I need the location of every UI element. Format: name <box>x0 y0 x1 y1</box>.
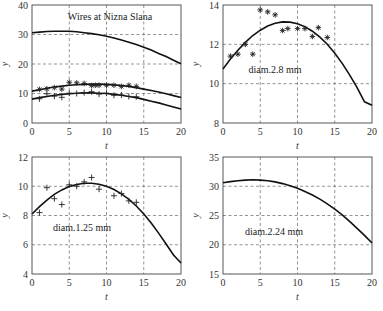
y-tick-label: 12 <box>18 152 28 163</box>
star-marker <box>310 34 316 40</box>
x-axis-label: t <box>296 140 299 151</box>
star-marker <box>96 82 102 88</box>
y-tick-label: 8 <box>214 118 219 129</box>
x-tick-label: 10 <box>293 126 303 137</box>
subplot-annotation: diam.2.24 mm <box>245 226 303 237</box>
plus-marker <box>126 93 132 99</box>
x-tick-label: 0 <box>30 277 35 288</box>
x-tick-label: 20 <box>367 126 377 137</box>
y-tick-label: 6 <box>23 239 28 250</box>
star-marker <box>74 80 80 86</box>
y-tick-label: 0 <box>23 118 28 129</box>
plus-marker <box>36 210 42 216</box>
x-tick-label: 10 <box>102 126 112 137</box>
x-tick-label: 5 <box>258 277 263 288</box>
y-tick-label: 10 <box>18 181 28 192</box>
y-tick-label: 10 <box>18 88 28 99</box>
star-marker <box>280 28 286 34</box>
plus-marker <box>96 91 102 97</box>
plus-marker <box>66 90 72 96</box>
star-marker <box>235 51 241 57</box>
star-marker <box>37 87 43 93</box>
x-tick-label: 5 <box>67 277 72 288</box>
star-marker <box>302 26 308 32</box>
x-tick-label: 0 <box>30 126 35 137</box>
star-marker <box>325 35 331 41</box>
plus-marker <box>118 92 124 98</box>
subplot-annotation: diam.2.8 mm <box>248 64 301 75</box>
plus-marker <box>44 185 50 191</box>
y-axis-label: y <box>0 61 10 67</box>
plus-marker <box>96 186 102 192</box>
y-tick-label: 14 <box>209 0 219 11</box>
subplot-wires-at-nizna-slana: 05101520010203040tyWires at Nizna Slana <box>0 0 186 151</box>
subplot-annotation: Wires at Nizna Slana <box>68 11 153 22</box>
x-axis-label: t <box>296 291 299 302</box>
star-marker <box>257 7 263 13</box>
x-tick-label: 15 <box>139 126 149 137</box>
plus-marker <box>111 193 117 199</box>
star-marker <box>250 51 256 57</box>
plus-marker <box>89 174 95 180</box>
y-axis-label: y <box>0 213 10 219</box>
plus-marker <box>74 91 80 97</box>
star-marker <box>265 9 271 15</box>
star-marker <box>126 82 132 88</box>
star-marker <box>104 82 110 88</box>
plus-marker <box>81 90 87 96</box>
subplot-diam-1-25-mm: 051015204681012tydiam.1.25 mm <box>0 152 186 303</box>
y-tick-label: 25 <box>209 210 219 221</box>
x-tick-label: 15 <box>139 277 149 288</box>
star-marker <box>59 86 65 92</box>
subplot-diam-2-8-mm: 051015208101214tydiam.2.8 mm <box>190 0 377 151</box>
star-marker <box>295 26 301 32</box>
star-marker <box>119 84 125 90</box>
x-axis-label: t <box>105 140 108 151</box>
star-marker <box>81 81 87 87</box>
x-tick-label: 5 <box>67 126 72 137</box>
y-axis-label: y <box>190 61 201 67</box>
x-tick-label: 20 <box>367 277 377 288</box>
star-marker <box>285 26 291 32</box>
x-tick-label: 10 <box>102 277 112 288</box>
star-marker <box>272 12 278 18</box>
y-tick-label: 10 <box>209 78 219 89</box>
star-marker <box>134 84 140 90</box>
star-marker <box>111 82 117 88</box>
star-marker <box>66 79 72 85</box>
y-tick-label: 4 <box>23 269 28 280</box>
fit-curve <box>32 31 181 63</box>
plus-marker <box>104 90 110 96</box>
x-tick-label: 20 <box>176 126 186 137</box>
star-marker <box>243 42 249 48</box>
plus-marker <box>51 93 57 99</box>
x-tick-label: 0 <box>221 126 226 137</box>
x-tick-label: 20 <box>176 277 186 288</box>
star-marker <box>52 85 58 91</box>
star-marker <box>44 86 50 92</box>
x-tick-label: 10 <box>293 277 303 288</box>
figure: 05101520010203040tyWires at Nizna Slana … <box>0 0 383 311</box>
x-tick-label: 15 <box>330 277 340 288</box>
star-marker <box>228 53 234 59</box>
y-tick-label: 30 <box>209 181 219 192</box>
y-tick-label: 12 <box>209 39 219 50</box>
x-tick-label: 15 <box>330 126 340 137</box>
x-tick-label: 5 <box>258 126 263 137</box>
x-axis-label: t <box>105 291 108 302</box>
x-tick-label: 0 <box>221 277 226 288</box>
plus-marker <box>59 202 65 208</box>
star-marker <box>316 25 322 31</box>
y-axis-label: y <box>190 213 201 219</box>
y-tick-label: 35 <box>209 152 219 163</box>
subplot-annotation: diam.1.25 mm <box>53 222 111 233</box>
y-tick-label: 15 <box>209 269 219 280</box>
y-tick-label: 8 <box>23 210 28 221</box>
y-tick-label: 20 <box>18 59 28 70</box>
subplot-diam-2-24-mm: 051015201520253035tydiam.2.24 mm <box>190 152 377 303</box>
y-tick-label: 40 <box>18 0 28 11</box>
y-tick-label: 20 <box>209 239 219 250</box>
y-tick-label: 30 <box>18 29 28 40</box>
